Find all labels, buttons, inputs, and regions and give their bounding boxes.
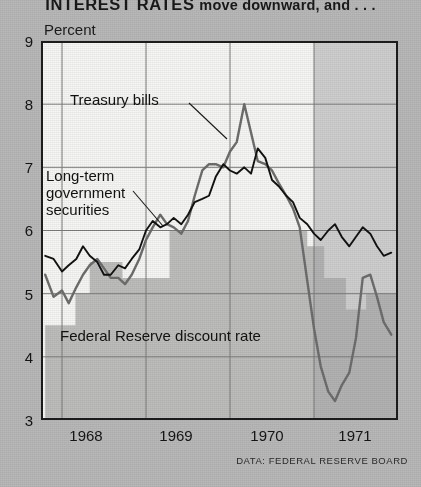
headline-lead: INTEREST RATES — [45, 0, 194, 13]
chart-headline: INTEREST RATES move downward, and . . . — [0, 0, 421, 14]
y-tick-7: 7 — [0, 159, 33, 176]
x-tick-1970: 1970 — [250, 427, 283, 444]
y-tick-8: 8 — [0, 96, 33, 113]
annotation-discount-rate: Federal Reserve discount rate — [60, 328, 261, 345]
annotation-treasury-bills: Treasury bills — [70, 92, 159, 109]
y-tick-5: 5 — [0, 286, 33, 303]
y-axis-unit-label: Percent — [44, 21, 96, 38]
y-tick-6: 6 — [0, 222, 33, 239]
y-tick-4: 4 — [0, 349, 33, 366]
annotation-longterm-line2: government — [46, 185, 125, 202]
x-tick-1971: 1971 — [338, 427, 371, 444]
x-tick-1969: 1969 — [159, 427, 192, 444]
y-tick-9: 9 — [0, 33, 33, 50]
leader-longterm-securities — [133, 191, 163, 226]
y-tick-3: 3 — [0, 412, 33, 429]
x-tick-1968: 1968 — [69, 427, 102, 444]
source-credit: DATA: FEDERAL RESERVE BOARD — [236, 455, 408, 466]
headline-tail: move downward, and . . . — [199, 0, 375, 13]
annotation-longterm-securities: Long-term government securities — [46, 168, 125, 218]
leader-treasury-bills — [189, 103, 227, 139]
annotation-longterm-line1: Long-term — [46, 168, 125, 185]
annotation-longterm-line3: securities — [46, 202, 125, 219]
